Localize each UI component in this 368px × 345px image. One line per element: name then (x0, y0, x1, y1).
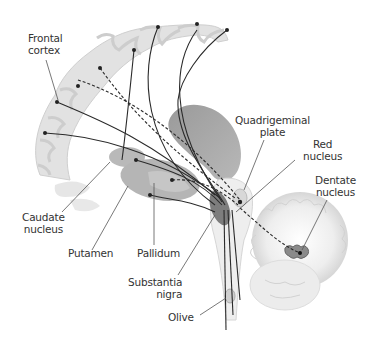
label-putamen: Putamen (68, 247, 113, 259)
label-dentate-nucleus: Dentate nucleus (315, 174, 356, 198)
label-caudate-nucleus: Caudate nucleus (22, 211, 65, 235)
label-quadrigeminal-plate: Quadrigeminal plate (235, 114, 310, 138)
label-frontal-cortex: Frontal cortex (28, 32, 63, 56)
label-red-nucleus: Red nucleus (303, 138, 342, 162)
label-pallidum: Pallidum (137, 247, 180, 259)
label-olive: Olive (168, 311, 194, 323)
olive-shape (225, 289, 235, 303)
label-substantia-nigra: Substantia nigra (128, 276, 182, 300)
